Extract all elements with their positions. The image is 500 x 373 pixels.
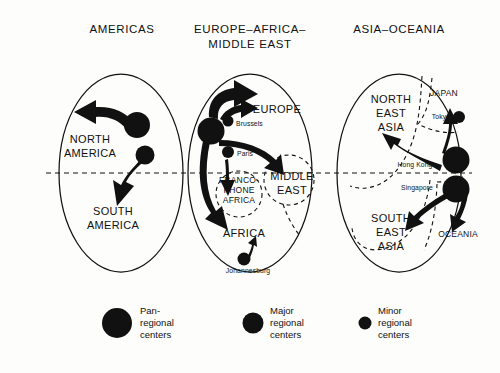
legend-label-major-line3: centers: [270, 329, 301, 340]
region-label-north-east-asia-line3: ASIA: [378, 121, 405, 133]
region-label-north-east-asia-line2: EAST: [376, 107, 406, 119]
legend-label-major-line2: regional: [270, 317, 304, 328]
legend-label-pan-line3: centers: [140, 329, 171, 340]
legend-label-minor-line1: Minor: [378, 305, 402, 316]
panel-europe-africa-middle-east: EUROPE AFRICA MIDDLE EAST FRANCO- PHONE …: [188, 74, 314, 275]
region-label-middle-east-line2: EAST: [277, 184, 307, 196]
region-label-africa: AFRICA: [223, 227, 265, 239]
flow-arrow-americas-to-south: [113, 160, 146, 206]
region-label-europe: EUROPE: [253, 103, 301, 115]
city-label-tokyo: Tokyo: [432, 113, 450, 121]
region-label-south-east-asia-line3: ASIA: [378, 240, 405, 252]
region-label-north-east-asia-line1: NORTH: [371, 93, 411, 105]
region-label-south-america-line2: AMERICA: [87, 219, 140, 231]
city-label-paris: Paris: [237, 150, 253, 157]
region-label-oceania: OCEANIA: [438, 229, 478, 239]
panel-title-eame-line2: MIDDLE EAST: [208, 38, 291, 50]
node-americas-pan-regional: [124, 112, 150, 138]
node-eame-pan-regional: [198, 118, 225, 145]
city-label-brussels: Brussels: [236, 120, 263, 127]
oceania-dashed-boundary-left: [424, 184, 437, 250]
city-label-johannesburg: Johannesburg: [226, 267, 270, 275]
node-johannesburg: [238, 253, 251, 266]
region-label-south-east-asia-line1: SOUTH: [371, 212, 411, 224]
region-label-south-east-asia-line2: EAST: [376, 226, 406, 238]
regional-flow-svg: AMERICAS EUROPE–AFRICA– MIDDLE EAST ASIA…: [0, 0, 500, 373]
legend: Pan- regional centers Major regional cen…: [102, 305, 412, 340]
region-label-francophone-line1: FRANCO-: [219, 175, 259, 185]
flow-arrow-to-south-east-asia: [405, 194, 448, 231]
node-brussels: [223, 116, 234, 127]
legend-label-minor-line2: regional: [378, 317, 412, 328]
legend-swatch-minor-regional: [359, 317, 372, 330]
japan-dashed-boundary: [418, 78, 458, 133]
city-label-hong-kong: Hong Kong: [398, 161, 433, 169]
region-label-north-america-line2: AMERICA: [64, 147, 117, 159]
panel-title-eame-line1: EUROPE–AFRICA–: [194, 23, 306, 35]
legend-label-pan-line1: Pan-: [140, 305, 160, 316]
legend-swatch-major-regional: [243, 313, 264, 334]
region-label-japan: JAPAN: [430, 88, 458, 98]
region-label-francophone-line2: PHONE: [223, 185, 254, 195]
legend-label-major-line1: Major: [270, 305, 294, 316]
node-singapore: [443, 176, 470, 203]
middle-east-dashed-spur: [283, 204, 300, 236]
node-americas-major-regional: [136, 146, 155, 165]
region-label-south-america-line1: SOUTH: [93, 205, 133, 217]
node-paris: [222, 146, 234, 158]
region-label-north-america-line1: NORTH: [70, 133, 110, 145]
panel-title-americas: AMERICAS: [90, 23, 155, 35]
legend-swatch-pan-regional: [102, 308, 132, 338]
diagram-canvas: AMERICAS EUROPE–AFRICA– MIDDLE EAST ASIA…: [0, 0, 500, 373]
legend-label-pan-line2: regional: [140, 317, 174, 328]
panel-title-asia-oceania: ASIA–OCEANIA: [353, 23, 445, 35]
city-label-singapore: Singapore: [401, 184, 433, 192]
region-label-francophone-line3: AFRICA: [223, 195, 255, 205]
legend-label-minor-line3: centers: [378, 329, 409, 340]
node-tokyo: [453, 111, 465, 123]
node-hong-kong: [443, 147, 470, 174]
region-label-middle-east-line1: MIDDLE: [270, 170, 313, 182]
